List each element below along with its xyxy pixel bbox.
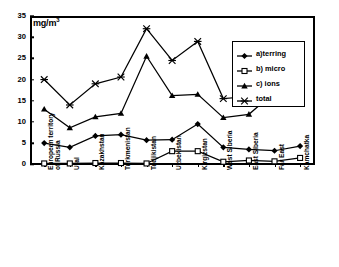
x-axis-tick-label: Ural <box>73 157 80 170</box>
x-axis-tick-mark <box>70 163 71 167</box>
data-point-square-open <box>242 68 247 73</box>
legend-marker-square-open <box>236 65 253 77</box>
y-axis-tick-label: 10 <box>4 118 26 126</box>
x-axis-tick-label: Kazakhstan <box>98 133 105 170</box>
data-point-diamond <box>241 52 247 58</box>
legend-item-label: c) ions <box>256 80 280 87</box>
y-axis-tick-label: 20 <box>4 76 26 84</box>
x-axis-tick-label: West Siberia <box>226 131 233 170</box>
y-axis-tick-mark <box>30 121 34 122</box>
data-point-cross-star <box>241 97 249 104</box>
unit-label-text: mg/m <box>33 18 56 28</box>
x-axis-tick-label: European territory of Russia <box>47 112 62 170</box>
legend-swatch <box>236 93 253 105</box>
legend-swatch <box>236 48 253 60</box>
y-axis-tick-mark <box>30 58 34 59</box>
line-chart: mg/m3 05101520253035 European territory … <box>0 0 339 267</box>
x-axis-tick-label: Kirgizstan <box>201 138 208 170</box>
x-axis-tick-mark <box>300 163 301 167</box>
legend-item[interactable]: total <box>236 91 301 106</box>
y-axis-tick-label: 15 <box>4 97 26 105</box>
y-axis-tick-label: 30 <box>4 33 26 41</box>
x-axis-tick-mark <box>147 163 148 167</box>
legend-item[interactable]: c) ions <box>236 76 301 91</box>
legend-item-label: b) micro <box>256 65 285 72</box>
x-axis-tick-label: Uzbekistan <box>175 135 182 170</box>
legend: a)terringb) microc) ionstotal <box>232 41 305 107</box>
y-axis-tick-mark <box>30 142 34 143</box>
y-axis-tick-mark <box>30 15 34 16</box>
y-axis-tick-label: 0 <box>4 161 26 169</box>
legend-item[interactable]: a)terring <box>236 46 301 61</box>
y-axis-tick-mark <box>30 100 34 101</box>
x-axis-tick-mark <box>249 163 250 167</box>
unit-label-exponent: 3 <box>56 17 59 23</box>
x-axis-tick-label: Kamchatka <box>303 135 310 170</box>
y-axis-tick-mark <box>30 164 34 165</box>
x-axis-tick-mark <box>198 163 199 167</box>
y-axis-tick-label: 35 <box>4 12 26 20</box>
legend-swatch <box>236 63 253 75</box>
legend-marker-triangle <box>236 80 253 92</box>
y-axis-tick-mark <box>30 36 34 37</box>
x-axis-tick-mark <box>223 163 224 167</box>
plot-top-border <box>30 16 315 18</box>
plot-right-border <box>313 16 315 164</box>
legend-marker-diamond <box>236 50 253 62</box>
x-axis-tick-mark <box>275 163 276 167</box>
y-axis-tick-mark <box>30 79 34 80</box>
x-axis-tick-label: Turkmenistan <box>124 127 131 170</box>
legend-marker-cross-star <box>236 95 253 107</box>
x-axis-tick-label: East Siberia <box>252 132 259 170</box>
legend-item-label: a)terring <box>256 50 286 57</box>
y-axis-tick-label: 25 <box>4 55 26 63</box>
x-axis-tick-mark <box>95 163 96 167</box>
legend-swatch <box>236 78 253 90</box>
x-axis-tick-label: Far East <box>278 144 285 170</box>
x-axis-tick-label: Tadjikistan <box>150 136 157 170</box>
y-axis-tick-label: 5 <box>4 139 26 147</box>
x-axis-tick-mark <box>121 163 122 167</box>
x-axis-tick-mark <box>172 163 173 167</box>
y-axis-unit-label: mg/m3 <box>33 17 59 28</box>
x-axis-tick-mark <box>44 163 45 167</box>
legend-item-label: total <box>256 95 272 102</box>
legend-item[interactable]: b) micro <box>236 61 301 76</box>
